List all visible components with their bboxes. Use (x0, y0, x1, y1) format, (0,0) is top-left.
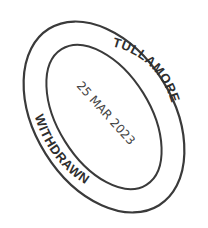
stamp-top-text: TULLAMORE (111, 34, 183, 104)
stamp-date: 25 MAR 2023 (74, 79, 138, 148)
library-stamp: TULLAMORE WITHDRAWN 25 MAR 2023 (0, 0, 208, 228)
